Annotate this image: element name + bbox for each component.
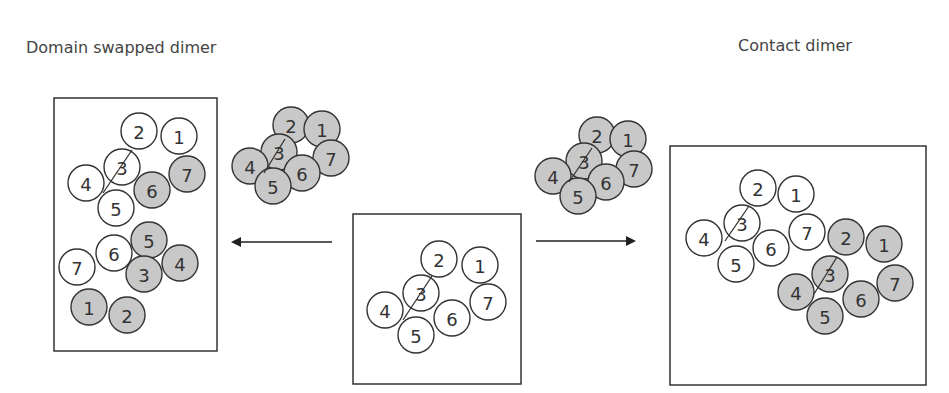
svg-text:7: 7 <box>181 165 192 186</box>
domain-circle-2: 2 <box>828 219 864 255</box>
svg-text:7: 7 <box>71 258 82 279</box>
panel-contact-dimer: 21374652137465 <box>670 146 926 385</box>
domain-circle-6: 6 <box>843 281 879 317</box>
panel-shaded-monomer-right: 2137465 <box>535 117 652 214</box>
svg-text:6: 6 <box>446 309 457 330</box>
svg-text:2: 2 <box>121 306 132 327</box>
domain-circle-1: 1 <box>778 176 814 212</box>
svg-text:1: 1 <box>316 120 327 141</box>
svg-text:6: 6 <box>108 244 119 265</box>
svg-text:2: 2 <box>285 116 296 137</box>
svg-text:1: 1 <box>173 127 184 148</box>
svg-text:4: 4 <box>174 254 185 275</box>
svg-text:5: 5 <box>730 255 741 276</box>
svg-text:6: 6 <box>296 164 307 185</box>
svg-text:4: 4 <box>698 229 709 250</box>
domain-circle-4: 4 <box>162 245 198 281</box>
svg-text:1: 1 <box>878 235 889 256</box>
domain-circle-1: 1 <box>161 118 197 154</box>
domain-circle-3: 3 <box>126 256 162 292</box>
svg-text:1: 1 <box>474 256 485 277</box>
domain-circle-4: 4 <box>686 220 722 256</box>
svg-text:2: 2 <box>433 250 444 271</box>
domain-circle-7: 7 <box>877 265 913 301</box>
domain-circle-6: 6 <box>96 235 132 271</box>
svg-text:7: 7 <box>801 223 812 244</box>
svg-text:2: 2 <box>133 122 144 143</box>
dimer-diagram: 2137465564731221374652137465213746521374… <box>0 0 949 393</box>
panel-monomer-center: 2137465 <box>353 214 521 384</box>
domain-circle-2: 2 <box>740 170 776 206</box>
domain-circle-7: 7 <box>169 156 205 192</box>
svg-text:3: 3 <box>116 158 127 179</box>
domain-circle-1: 1 <box>71 289 107 325</box>
domain-circle-1: 1 <box>462 247 498 283</box>
svg-text:4: 4 <box>790 283 801 304</box>
svg-text:5: 5 <box>819 307 830 328</box>
panel-domain-swapped-dimer: 21374655647312 <box>54 98 217 351</box>
svg-text:3: 3 <box>138 265 149 286</box>
svg-text:5: 5 <box>110 199 121 220</box>
domain-circle-5: 5 <box>131 222 167 258</box>
domain-circle-4: 4 <box>367 292 403 328</box>
domain-circle-5: 5 <box>255 168 291 204</box>
svg-text:7: 7 <box>325 149 336 170</box>
svg-text:1: 1 <box>790 185 801 206</box>
svg-text:1: 1 <box>622 130 633 151</box>
svg-text:6: 6 <box>146 181 157 202</box>
svg-text:6: 6 <box>855 290 866 311</box>
svg-text:4: 4 <box>80 174 91 195</box>
svg-text:2: 2 <box>591 126 602 147</box>
svg-text:6: 6 <box>765 239 776 260</box>
domain-circle-7: 7 <box>789 214 825 250</box>
domain-circle-5: 5 <box>718 246 754 282</box>
svg-text:7: 7 <box>628 160 639 181</box>
domain-circle-2: 2 <box>109 297 145 333</box>
domain-circle-6: 6 <box>134 172 170 208</box>
domain-circle-3: 3 <box>104 149 140 185</box>
svg-text:5: 5 <box>143 231 154 252</box>
domain-circle-1: 1 <box>866 226 902 262</box>
svg-text:7: 7 <box>889 274 900 295</box>
domain-circle-5: 5 <box>807 298 843 334</box>
domain-circle-7: 7 <box>470 284 506 320</box>
svg-text:6: 6 <box>600 173 611 194</box>
domain-circle-4: 4 <box>778 274 814 310</box>
svg-text:3: 3 <box>273 143 284 164</box>
svg-text:5: 5 <box>572 187 583 208</box>
svg-text:2: 2 <box>752 179 763 200</box>
svg-text:7: 7 <box>482 293 493 314</box>
domain-circle-5: 5 <box>560 178 596 214</box>
svg-text:4: 4 <box>379 301 390 322</box>
svg-text:4: 4 <box>547 167 558 188</box>
svg-text:1: 1 <box>83 298 94 319</box>
domain-circle-5: 5 <box>398 317 434 353</box>
svg-text:5: 5 <box>410 326 421 347</box>
domain-circle-6: 6 <box>434 300 470 336</box>
svg-text:5: 5 <box>267 177 278 198</box>
domain-circle-6: 6 <box>753 230 789 266</box>
domain-circle-2: 2 <box>421 241 457 277</box>
domain-circle-4: 4 <box>68 165 104 201</box>
domain-circle-2: 2 <box>121 113 157 149</box>
domain-circle-3: 3 <box>812 256 848 292</box>
panel-shaded-monomer-left: 2137465 <box>232 107 349 204</box>
domain-circle-5: 5 <box>98 190 134 226</box>
svg-text:4: 4 <box>244 157 255 178</box>
domain-circle-7: 7 <box>59 249 95 285</box>
svg-text:2: 2 <box>840 228 851 249</box>
